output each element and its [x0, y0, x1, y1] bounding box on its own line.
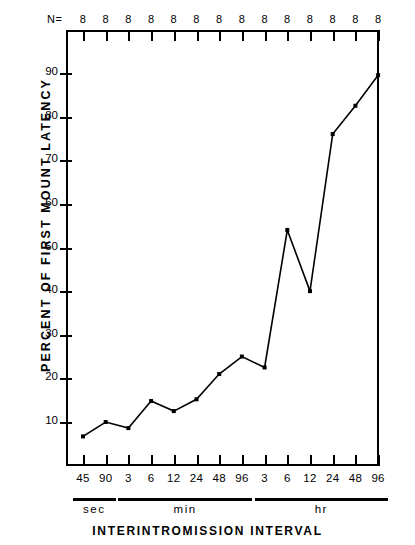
data-point	[104, 420, 108, 424]
data-point	[195, 397, 199, 401]
data-point	[240, 355, 244, 359]
data-line	[83, 75, 378, 436]
data-point	[81, 434, 85, 438]
chart-figure: PERCENT OF FIRST MOUNT LATENCY INTERINTR…	[0, 0, 415, 545]
data-point	[263, 365, 267, 369]
data-point	[376, 73, 380, 77]
data-point	[308, 289, 312, 293]
data-markers	[81, 73, 380, 438]
data-point	[126, 426, 130, 430]
data-point	[172, 409, 176, 413]
data-point	[331, 132, 335, 136]
data-series-layer	[0, 0, 415, 545]
data-point	[285, 228, 289, 232]
data-point	[217, 372, 221, 376]
data-point	[353, 104, 357, 108]
data-point	[149, 399, 153, 403]
